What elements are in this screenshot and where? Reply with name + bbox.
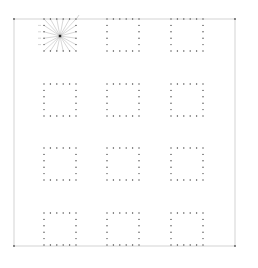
grid-dot (177, 83, 178, 84)
grid-dot (202, 167, 203, 168)
grid-dot (56, 212, 57, 213)
grid-dot (126, 18, 127, 19)
grid-dot (132, 18, 133, 19)
grid-dot (75, 109, 76, 110)
grid-dot (138, 154, 139, 155)
grid-dot (75, 244, 76, 245)
grid-dot (43, 147, 44, 148)
grid-dot (43, 44, 44, 45)
grid-dot (190, 244, 191, 245)
grid-dot (43, 225, 44, 226)
grid-dot (170, 147, 171, 148)
dot-grid-diagram (0, 0, 258, 268)
grid-dot (170, 31, 171, 32)
grid-dot (43, 31, 44, 32)
grid-dot (56, 244, 57, 245)
grid-dot (113, 18, 114, 19)
grid-dot (183, 18, 184, 19)
grid-dot (106, 160, 107, 161)
grid-dot (119, 18, 120, 19)
grid-dot (202, 173, 203, 174)
grid-dot (177, 212, 178, 213)
grid-dot (113, 212, 114, 213)
grid-dot (190, 147, 191, 148)
fan-ray (44, 25, 60, 36)
grid-dot (106, 244, 107, 245)
grid-dot (183, 50, 184, 51)
grid-dot (106, 115, 107, 116)
grid-dot (126, 50, 127, 51)
grid-dot (170, 50, 171, 51)
grid-dot (43, 109, 44, 110)
grid-dot (190, 179, 191, 180)
grid-dot (196, 179, 197, 180)
grid-dot (113, 244, 114, 245)
grid-dot (50, 83, 51, 84)
grid-dot (177, 179, 178, 180)
grid-dot (43, 90, 44, 91)
grid-dot (202, 238, 203, 239)
grid-dot (138, 109, 139, 110)
grid-dot (170, 219, 171, 220)
grid-dot (43, 160, 44, 161)
dotted-square (43, 147, 76, 180)
grid-dot (119, 212, 120, 213)
grid-dot (106, 44, 107, 45)
grid-dot (170, 154, 171, 155)
grid-dot (138, 167, 139, 168)
fan-center-node (59, 35, 61, 37)
grid-dot (113, 50, 114, 51)
dotted-square (170, 18, 203, 51)
frame-rect (14, 19, 235, 246)
grid-dot (202, 219, 203, 220)
grid-dot (119, 147, 120, 148)
grid-dot (113, 179, 114, 180)
grid-dot (75, 225, 76, 226)
grid-dot (106, 31, 107, 32)
grid-dot (43, 212, 44, 213)
grid-dot (138, 147, 139, 148)
grid-dot (119, 50, 120, 51)
dotted-square (170, 147, 203, 180)
grid-dot (138, 50, 139, 51)
grid-dot (190, 212, 191, 213)
grid-dot (63, 179, 64, 180)
grid-dot (56, 147, 57, 148)
grid-dot (126, 83, 127, 84)
grid-dot (196, 147, 197, 148)
grid-dot (202, 103, 203, 104)
grid-dot (75, 154, 76, 155)
grid-dot (202, 25, 203, 26)
grid-dot (170, 18, 171, 19)
grid-dot (202, 115, 203, 116)
grid-dot (43, 50, 44, 51)
grid-dot (63, 18, 64, 19)
grid-dot (106, 212, 107, 213)
grid-dot (132, 179, 133, 180)
grid-dot (69, 18, 70, 19)
grid-dot (56, 179, 57, 180)
grid-dot (170, 103, 171, 104)
grid-dot (138, 173, 139, 174)
grid-dot (202, 90, 203, 91)
grid-dot (75, 90, 76, 91)
grid-dot (75, 38, 76, 39)
grid-dot (126, 115, 127, 116)
grid-dot (202, 212, 203, 213)
grid-dot (196, 115, 197, 116)
grid-dot (119, 179, 120, 180)
grid-dot (50, 50, 51, 51)
grid-dot (170, 232, 171, 233)
grid-dot (126, 212, 127, 213)
grid-dot (170, 109, 171, 110)
grid-dot (183, 147, 184, 148)
grid-dot (202, 44, 203, 45)
grid-dot (63, 147, 64, 148)
fan-ray (44, 32, 60, 36)
grid-dot (170, 83, 171, 84)
grid-dot (170, 90, 171, 91)
grid-dot (69, 179, 70, 180)
grid-dot (170, 115, 171, 116)
grid-dot (75, 115, 76, 116)
grid-dot (75, 212, 76, 213)
